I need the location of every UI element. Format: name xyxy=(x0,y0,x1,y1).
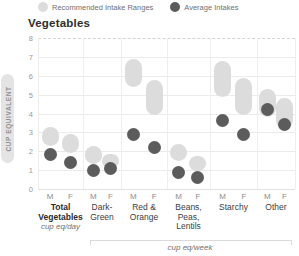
average-intake-dot xyxy=(44,148,57,161)
sex-label-row: MF xyxy=(167,192,210,203)
y-axis-ticks: 012345678 xyxy=(0,0,34,256)
y-tick-label: 2 xyxy=(0,147,33,156)
x-axis-labels: MFTotalVegetablescup eq/dayMFDark-GreenM… xyxy=(38,192,295,240)
sex-label: F xyxy=(196,192,201,201)
category-label-block: MFOther xyxy=(257,192,295,213)
sex-label: F xyxy=(241,192,246,201)
sex-label-row: MF xyxy=(38,192,83,203)
plot-area xyxy=(38,38,295,189)
sex-label: M xyxy=(130,192,137,201)
chart-title: Vegetables xyxy=(28,17,90,29)
sex-label: M xyxy=(47,192,54,201)
legend-label: Recommended Intake Ranges xyxy=(52,3,153,12)
v-gridline xyxy=(83,38,84,189)
sex-label: M xyxy=(219,192,226,201)
sex-label: F xyxy=(68,192,73,201)
v-gridline xyxy=(257,38,258,189)
sex-label-row: MF xyxy=(121,192,167,203)
recommended-range-pill xyxy=(125,59,142,87)
y-tick-label: 1 xyxy=(0,166,33,175)
average-intake-dot xyxy=(127,128,140,141)
v-gridline xyxy=(167,38,168,189)
category-label: Lentils xyxy=(167,222,210,232)
legend-item-average-intakes: Average Intakes xyxy=(170,2,238,12)
category-label-block: MFTotalVegetablescup eq/day xyxy=(38,192,83,232)
range-swatch-icon xyxy=(38,2,48,12)
y-tick-label: 7 xyxy=(0,53,33,62)
average-intake-dot xyxy=(64,156,77,169)
category-label-block: MFRed &Orange xyxy=(121,192,167,222)
sex-label: F xyxy=(152,192,157,201)
v-gridline xyxy=(121,38,122,189)
y-tick-label: 6 xyxy=(0,72,33,81)
recommended-range-pill xyxy=(189,156,206,171)
sex-label-row: MF xyxy=(210,192,257,203)
average-intake-dot xyxy=(172,166,185,179)
sex-label-row: MF xyxy=(83,192,121,203)
recommended-range-pill xyxy=(235,78,252,116)
average-intake-dot xyxy=(237,128,250,141)
category-label: Green xyxy=(83,213,121,223)
v-gridline xyxy=(38,38,39,189)
sex-label: M xyxy=(175,192,182,201)
category-label-block: MFDark-Green xyxy=(83,192,121,222)
legend-item-recommended-ranges: Recommended Intake Ranges xyxy=(38,2,153,12)
recommended-range-pill xyxy=(170,144,187,161)
recommended-range-pill xyxy=(42,127,59,146)
recommended-range-pill xyxy=(214,61,231,97)
average-intake-dot xyxy=(104,162,117,175)
week-unit-label: cup eq/week xyxy=(168,243,213,252)
legend-label: Average Intakes xyxy=(184,3,238,12)
category-label-block: MFStarchy xyxy=(210,192,257,213)
dot-swatch-icon xyxy=(170,2,180,12)
recommended-range-pill xyxy=(85,146,102,165)
y-tick-label: 3 xyxy=(0,128,33,137)
day-unit-label: cup eq/day xyxy=(38,222,83,232)
sex-label-row: MF xyxy=(257,192,295,203)
v-gridline xyxy=(210,38,211,189)
sex-label: F xyxy=(108,192,113,201)
average-intake-dot xyxy=(278,118,291,131)
sex-label: F xyxy=(282,192,287,201)
category-label: Starchy xyxy=(210,203,257,213)
average-intake-dot xyxy=(87,164,100,177)
y-tick-label: 0 xyxy=(0,185,33,194)
vegetable-intake-chart: Recommended Intake Ranges Average Intake… xyxy=(0,0,299,256)
sex-label: M xyxy=(90,192,97,201)
category-label: Orange xyxy=(121,213,167,223)
average-intake-dot xyxy=(148,141,161,154)
recommended-range-pill xyxy=(146,80,163,116)
y-tick-label: 5 xyxy=(0,91,33,100)
legend: Recommended Intake Ranges Average Intake… xyxy=(38,2,238,12)
recommended-range-pill xyxy=(62,134,79,153)
y-tick-label: 8 xyxy=(0,34,33,43)
average-intake-dot xyxy=(261,103,274,116)
category-label-block: MFBeans,Peas,Lentils xyxy=(167,192,210,232)
category-label: Vegetables xyxy=(38,213,83,223)
h-gridline xyxy=(38,189,295,190)
category-label: Other xyxy=(257,203,295,213)
y-tick-label: 4 xyxy=(0,110,33,119)
sex-label: M xyxy=(264,192,271,201)
average-intake-dot xyxy=(191,171,204,184)
average-intake-dot xyxy=(216,114,229,127)
v-gridline xyxy=(295,38,296,189)
